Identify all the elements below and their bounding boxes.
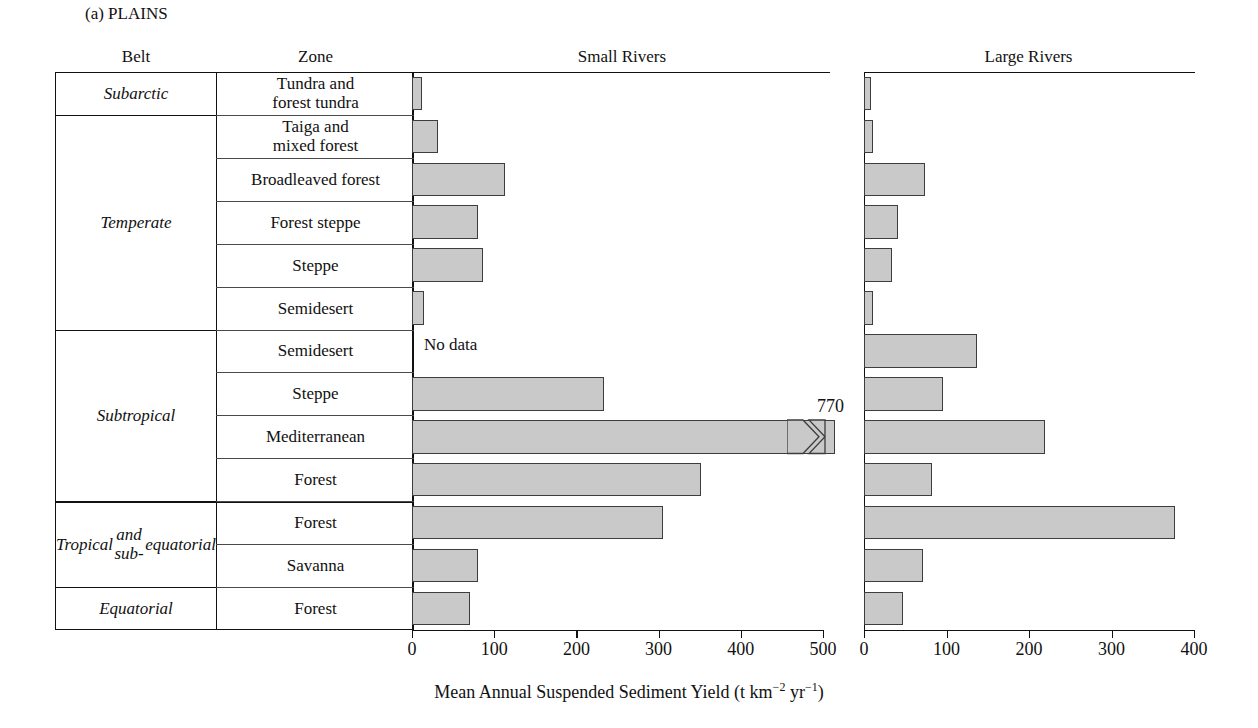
- x-axis-title-mid: yr: [785, 682, 805, 702]
- zone-cell: Taiga andmixed forest: [218, 115, 413, 158]
- belt-cell: Equatorial: [56, 587, 216, 630]
- small-rivers-bar: [412, 506, 663, 539]
- small-rivers-bar: [412, 163, 505, 196]
- large-rivers-bar: [864, 205, 898, 238]
- zone-cell: Forest: [218, 587, 413, 630]
- zone-cell: Semidesert: [218, 330, 413, 373]
- large-rivers-bar: [864, 163, 925, 196]
- belt-label-line: Subarctic: [104, 84, 169, 103]
- small-rivers-top-rule: [412, 72, 830, 73]
- large-rivers-tick-label: 100: [923, 639, 971, 660]
- figure-panel-label: (a) PLAINS: [85, 4, 168, 24]
- small-rivers-tick: [494, 630, 495, 638]
- large-rivers-bar: [864, 291, 873, 324]
- large-rivers-tick-label: 0: [840, 639, 888, 660]
- column-header-zone: Zone: [217, 47, 414, 67]
- zone-cell: Savanna: [218, 544, 413, 587]
- figure-root: (a) PLAINS Belt Zone Small Rivers Large …: [0, 0, 1258, 728]
- large-rivers-bar: [864, 248, 892, 281]
- zone-cell: Forest: [218, 501, 413, 544]
- small-rivers-tick-label: 400: [717, 639, 765, 660]
- belt-label-line: Temperate: [100, 213, 171, 232]
- small-rivers-tick: [576, 630, 577, 638]
- x-axis-title-close: ): [818, 682, 824, 702]
- column-header-large-rivers: Large Rivers: [862, 47, 1195, 67]
- small-rivers-tick-label: 100: [470, 639, 518, 660]
- large-rivers-tick-label: 300: [1088, 639, 1136, 660]
- large-rivers-tick: [1194, 630, 1195, 638]
- small-rivers-tick: [412, 630, 413, 638]
- bar-value-label: 770: [817, 396, 844, 417]
- small-rivers-axis-line: [412, 630, 824, 631]
- zone-cell: Forest: [218, 458, 413, 501]
- column-header-small-rivers: Small Rivers: [414, 47, 830, 67]
- large-rivers-bar: [864, 549, 923, 582]
- small-rivers-bar: [412, 592, 470, 625]
- belt-label-line: Equatorial: [99, 599, 173, 618]
- small-rivers-bar: [412, 549, 478, 582]
- large-rivers-bar: [864, 334, 977, 367]
- large-rivers-tick-label: 400: [1170, 639, 1218, 660]
- small-rivers-bar: [412, 291, 424, 324]
- zone-cell: Broadleaved forest: [218, 158, 413, 201]
- small-rivers-bar: [412, 120, 438, 153]
- small-rivers-bar: [412, 420, 835, 453]
- belt-label-line: Tropical: [56, 535, 113, 554]
- large-rivers-bar: [864, 77, 871, 110]
- belt-label-line: and sub-: [113, 525, 145, 563]
- large-rivers-top-rule: [864, 72, 1195, 73]
- small-rivers-tick: [659, 630, 660, 638]
- belt-cell: Subarctic: [56, 72, 216, 115]
- zone-cell: Tundra andforest tundra: [218, 72, 413, 115]
- zone-cell: Steppe: [218, 244, 413, 287]
- zone-cell: Semidesert: [218, 287, 413, 330]
- small-rivers-bar: [412, 377, 604, 410]
- belt-cell: Subtropical: [56, 330, 216, 502]
- belt-label-line: Subtropical: [97, 406, 176, 425]
- no-data-label: No data: [424, 335, 477, 355]
- large-rivers-tick: [947, 630, 948, 638]
- zone-cell: Mediterranean: [218, 415, 413, 458]
- zone-cell: Forest steppe: [218, 201, 413, 244]
- large-rivers-bar: [864, 592, 903, 625]
- large-rivers-bar: [864, 420, 1045, 453]
- small-rivers-tick: [823, 630, 824, 638]
- small-rivers-tick-label: 0: [388, 639, 436, 660]
- small-rivers-bar: [412, 205, 478, 238]
- small-rivers-bar: [412, 77, 422, 110]
- x-axis-exponent-2: −1: [805, 680, 818, 694]
- large-rivers-bar: [864, 506, 1175, 539]
- zone-cell: Steppe: [218, 372, 413, 415]
- small-rivers-bar: [412, 248, 483, 281]
- large-rivers-tick: [1029, 630, 1030, 638]
- belt-cell: Temperate: [56, 115, 216, 330]
- axis-break-icon: [787, 418, 843, 455]
- large-rivers-bar: [864, 120, 873, 153]
- small-rivers-tick-label: 300: [635, 639, 683, 660]
- x-axis-title: Mean Annual Suspended Sediment Yield (t …: [0, 680, 1258, 703]
- large-rivers-bar: [864, 463, 932, 496]
- column-header-belt: Belt: [55, 47, 217, 67]
- belt-cell: Tropicaland sub-equatorial: [56, 501, 216, 587]
- large-rivers-tick-label: 200: [1005, 639, 1053, 660]
- large-rivers-tick: [864, 630, 865, 638]
- x-axis-title-main: Mean Annual Suspended Sediment Yield (t …: [434, 682, 772, 702]
- small-rivers-tick: [741, 630, 742, 638]
- small-rivers-bar: [412, 463, 701, 496]
- belt-label-line: equatorial: [145, 535, 216, 554]
- large-rivers-bar: [864, 377, 943, 410]
- small-rivers-tick-label: 200: [552, 639, 600, 660]
- large-rivers-tick: [1112, 630, 1113, 638]
- x-axis-exponent-1: −2: [773, 680, 786, 694]
